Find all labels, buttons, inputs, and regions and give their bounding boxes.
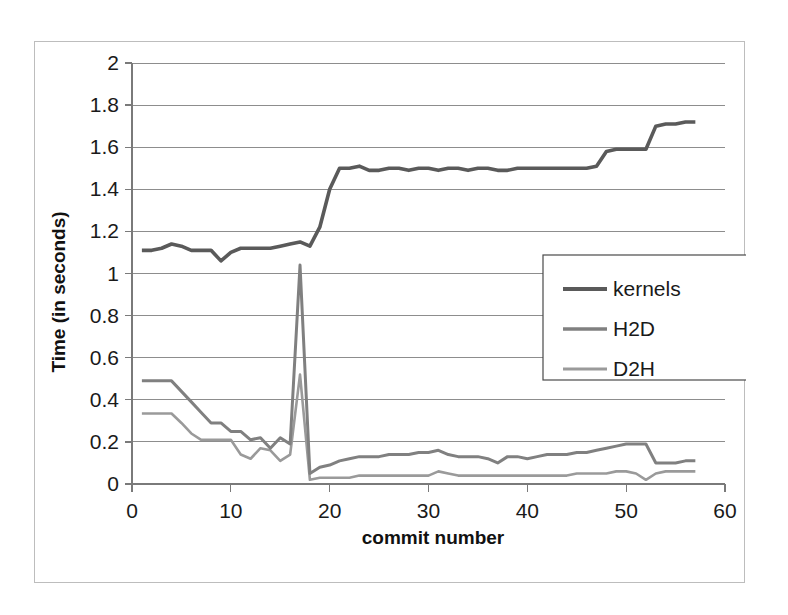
legend-label-d2h: D2H <box>613 357 655 380</box>
x-tick-label: 30 <box>417 499 440 522</box>
legend: kernels H2D D2H <box>543 255 746 380</box>
y-tick-label: 1.8 <box>90 93 119 116</box>
x-tick-label: 0 <box>126 499 138 522</box>
y-axis-title: Time (in seconds) <box>48 211 69 372</box>
x-tick-label: 10 <box>219 499 242 522</box>
x-tick-label: 50 <box>614 499 637 522</box>
legend-label-h2d: H2D <box>613 317 655 340</box>
y-tick-labels-group: 00.20.40.60.811.21.41.61.82 <box>90 51 120 495</box>
y-tick-label: 1.2 <box>90 219 119 242</box>
y-tick-label: 1 <box>107 262 119 285</box>
legend-label-kernels: kernels <box>613 277 681 300</box>
y-tick-label: 0.6 <box>90 346 119 369</box>
y-tick-label: 0.2 <box>90 430 119 453</box>
y-tick-label: 0 <box>107 472 119 495</box>
y-tick-label: 0.8 <box>90 304 119 327</box>
x-tick-labels-group: 0102030405060 <box>126 499 737 522</box>
x-tick-label: 40 <box>516 499 539 522</box>
y-tick-label: 1.4 <box>90 177 120 200</box>
x-tick-label: 60 <box>713 499 736 522</box>
chart-canvas: 00.20.40.60.811.21.41.61.82 010203040506… <box>35 42 746 584</box>
x-tick-label: 20 <box>318 499 341 522</box>
y-tick-label: 0.4 <box>90 388 120 411</box>
x-axis-title: commit number <box>362 527 505 548</box>
y-tick-label: 1.6 <box>90 135 119 158</box>
series-line-kernels <box>142 122 695 261</box>
chart-figure: 00.20.40.60.811.21.41.61.82 010203040506… <box>34 41 745 583</box>
y-tick-label: 2 <box>107 51 119 74</box>
